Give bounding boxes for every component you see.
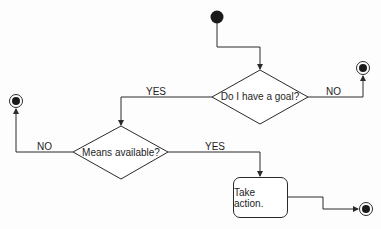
diagram-graphics bbox=[0, 0, 381, 229]
edge-label-goal-yes: YES bbox=[146, 87, 166, 97]
decision-goal-text: Do I have a goal? bbox=[221, 92, 299, 102]
end-node-2 bbox=[10, 95, 23, 108]
end-node-1 bbox=[357, 62, 370, 75]
edge-start-to-goal bbox=[217, 23, 260, 69]
start-node bbox=[211, 11, 224, 24]
edge-label-means-no: NO bbox=[37, 142, 52, 152]
edge-action-to-end bbox=[288, 197, 358, 209]
decision-means-text: Means available? bbox=[82, 148, 160, 158]
end-node-3 bbox=[360, 203, 373, 216]
edge-goal-yes bbox=[121, 97, 212, 125]
activity-diagram: Do I have a goal? Means available? YES N… bbox=[0, 0, 381, 229]
action-text: Take action. bbox=[234, 187, 287, 209]
action-take-action: Take action. bbox=[233, 177, 288, 218]
edge-means-yes bbox=[168, 152, 260, 176]
edge-label-goal-no: NO bbox=[326, 87, 341, 97]
edge-label-means-yes: YES bbox=[205, 142, 225, 152]
